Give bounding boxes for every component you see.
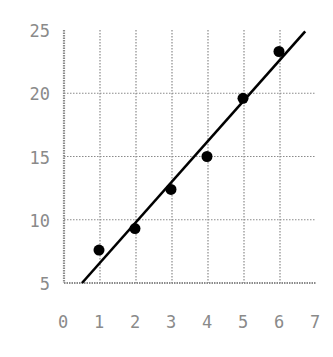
y-tick-label: 5 <box>40 274 50 294</box>
grid-lines <box>64 30 316 283</box>
y-tick-label: 15 <box>30 148 50 168</box>
data-points <box>94 46 285 256</box>
x-tick-label: 3 <box>166 312 176 332</box>
x-tick-label: 2 <box>130 312 140 332</box>
data-point <box>94 245 105 256</box>
data-point <box>238 93 249 104</box>
data-point <box>274 46 285 57</box>
x-tick-label: 6 <box>274 312 284 332</box>
x-tick-label: 0 <box>58 312 68 332</box>
x-tick-label: 4 <box>202 312 212 332</box>
x-tick-label: 7 <box>310 312 320 332</box>
scatter-chart: 510152025 01234567 <box>0 0 333 357</box>
y-tick-labels: 510152025 <box>30 21 50 294</box>
fit-line <box>82 31 305 283</box>
y-tick-label: 25 <box>30 21 50 41</box>
data-point <box>202 151 213 162</box>
x-tick-labels: 01234567 <box>58 312 320 332</box>
x-tick-label: 1 <box>94 312 104 332</box>
y-tick-label: 10 <box>30 211 50 231</box>
data-point <box>130 223 141 234</box>
best-fit-line <box>82 31 305 283</box>
data-point <box>166 184 177 195</box>
y-tick-label: 20 <box>30 84 50 104</box>
x-tick-label: 5 <box>238 312 248 332</box>
